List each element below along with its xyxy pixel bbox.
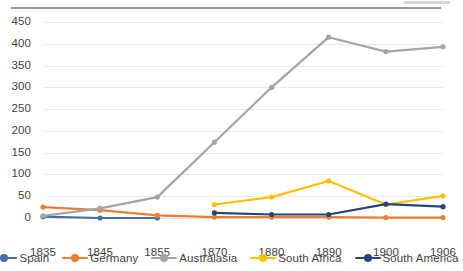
gridline <box>43 44 443 45</box>
legend-label: Germany <box>90 252 138 264</box>
legend-marker-dot <box>160 254 168 262</box>
y-axis-tick-label: 400 <box>0 38 31 49</box>
legend-swatch-icon <box>151 253 177 264</box>
y-axis-tick-label: 100 <box>0 168 31 179</box>
gridline <box>43 87 443 88</box>
y-axis-tick-label: 0 <box>0 212 31 223</box>
legend-marker-dot <box>71 254 79 262</box>
chart-legend: SpainGermanyAustralasiaSouth AfricaSouth… <box>0 247 450 269</box>
legend-label: Australasia <box>179 252 237 264</box>
gridline <box>43 153 443 154</box>
legend-label: South America <box>383 252 459 264</box>
y-axis-tick-label: 250 <box>0 103 31 114</box>
y-axis-tick-label: 150 <box>0 147 31 158</box>
legend-item-spain[interactable]: Spain <box>0 252 49 264</box>
header-divider <box>11 7 441 9</box>
plot-area: 050100150200250300350400450 183518451855… <box>43 22 443 218</box>
gridline <box>43 66 443 67</box>
legend-label: Spain <box>19 252 49 264</box>
legend-marker-dot <box>259 254 267 262</box>
legend-label: South Africa <box>278 252 341 264</box>
legend-item-germany[interactable]: Germany <box>62 252 138 264</box>
y-axis-tick-label: 50 <box>0 190 31 201</box>
legend-marker-dot <box>0 254 8 262</box>
gridline <box>43 174 443 175</box>
legend-item-south-africa[interactable]: South Africa <box>250 252 341 264</box>
gridline <box>43 218 443 219</box>
legend-swatch-icon <box>62 253 88 264</box>
gridline <box>43 131 443 132</box>
legend-item-australasia[interactable]: Australasia <box>151 252 237 264</box>
header-divider-accent <box>404 1 450 4</box>
gridline <box>43 22 443 23</box>
legend-swatch-icon <box>355 253 381 264</box>
y-axis-tick-label: 200 <box>0 125 31 136</box>
gridline <box>43 109 443 110</box>
y-axis-tick-label: 350 <box>0 60 31 71</box>
legend-item-south-america[interactable]: South America <box>355 252 459 264</box>
y-axis-tick-label: 300 <box>0 81 31 92</box>
legend-swatch-icon <box>0 253 17 264</box>
legend-marker-dot <box>364 254 372 262</box>
gridline <box>43 196 443 197</box>
y-axis-tick-label: 450 <box>0 16 31 27</box>
legend-swatch-icon <box>250 253 276 264</box>
